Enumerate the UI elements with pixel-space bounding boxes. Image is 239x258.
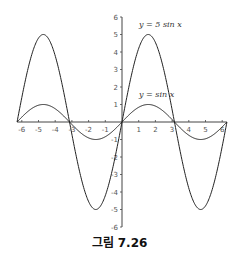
y-tick-label: 5 xyxy=(114,31,118,39)
x-tick-label: 5 xyxy=(203,126,207,134)
y-tick-label: 1 xyxy=(114,101,118,109)
x-tick-label: 3 xyxy=(170,126,174,134)
y-tick-label: 2 xyxy=(114,84,118,92)
x-tick-label: 4 xyxy=(187,126,192,134)
curve-label: y = 5 sin x xyxy=(138,20,182,29)
figure-caption: 그림 7.26 xyxy=(0,233,239,250)
y-tick-label: 3 xyxy=(114,66,118,74)
x-tick-label: -6 xyxy=(18,126,26,134)
x-tick-label: 1 xyxy=(136,126,140,134)
y-tick-label: -4 xyxy=(111,189,119,197)
y-tick-label: -1 xyxy=(111,136,118,144)
x-tick-label: -1 xyxy=(102,126,109,134)
curve-label: y = sin x xyxy=(138,90,175,99)
x-tick-label: -4 xyxy=(52,126,60,134)
y-tick-label: -5 xyxy=(111,206,118,214)
y-tick-label: -6 xyxy=(111,224,119,232)
curve-labels: y = 5 sin xy = sin x xyxy=(138,20,182,99)
y-tick-label: 6 xyxy=(114,14,119,22)
y-tick-label: 4 xyxy=(114,49,119,57)
x-tick-label: -2 xyxy=(85,126,92,134)
x-tick-label: 2 xyxy=(153,126,157,134)
sine-plot: -6-5-4-3-2-1123456-6-5-4-3-2-1123456 y =… xyxy=(0,0,239,258)
x-tick-label: -5 xyxy=(35,126,42,134)
